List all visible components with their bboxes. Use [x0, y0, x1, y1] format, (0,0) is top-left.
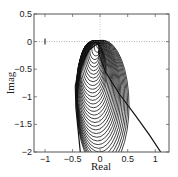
reference-lines: [34, 14, 169, 152]
nyquist-chart: −1−0.500.510.50−0.5−1−1.5−2 Real Imag: [0, 0, 178, 177]
y-tick-label: −1.5: [14, 119, 32, 129]
x-tick-label: 1: [153, 154, 158, 164]
plot-curves: [75, 40, 160, 170]
x-tick-label: −0.5: [64, 154, 82, 164]
x-tick-label: −1: [40, 154, 50, 164]
axis-ticks: −1−0.500.510.50−0.5−1−1.5−2: [14, 9, 169, 164]
y-tick-label: −1: [22, 92, 32, 102]
x-axis-label: Real: [91, 160, 111, 172]
y-tick-label: 0: [27, 37, 32, 47]
y-tick-label: −0.5: [14, 64, 32, 74]
y-axis-label: Imag: [4, 71, 16, 94]
y-tick-label: 0.5: [19, 9, 32, 19]
y-tick-label: −2: [22, 147, 32, 157]
plot-frame: [34, 14, 169, 152]
x-tick-label: 0.5: [121, 154, 134, 164]
